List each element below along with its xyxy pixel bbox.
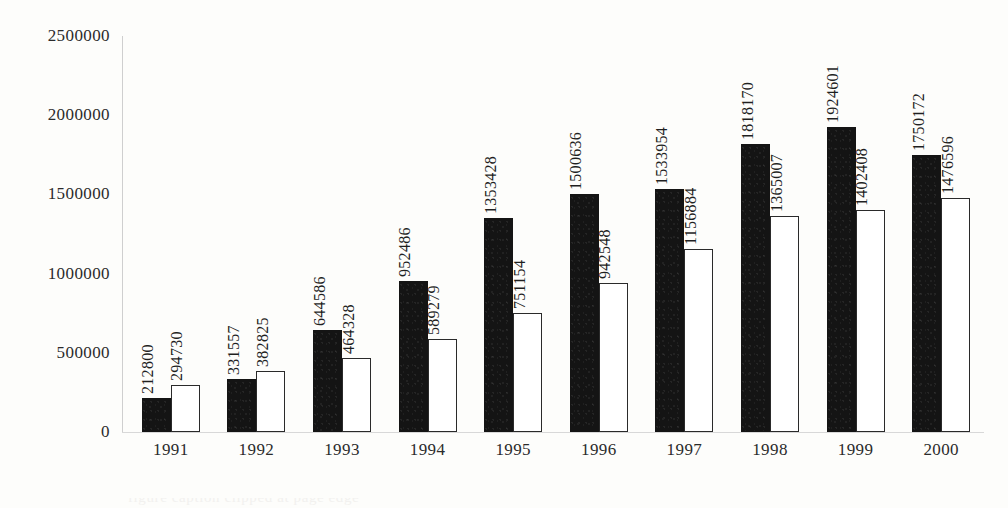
bar-value-label: 212800 [140,344,156,394]
bar-value-label: 1365007 [769,154,785,212]
bar-value-label: 589279 [426,285,442,335]
bar-group: 331557382825 [227,36,285,432]
x-tick-label: 1998 [752,440,788,460]
bar-group: 17501721476596 [912,36,970,432]
x-tick-label: 1992 [239,440,275,460]
bar-dark[interactable]: 1500636 [570,194,599,432]
x-tick-label: 1991 [153,440,189,460]
bar-value-label: 1750172 [911,93,927,151]
bar-group: 19246011402408 [827,36,885,432]
bar-group: 212800294730 [142,36,200,432]
x-tick-label: 1999 [838,440,874,460]
bar-value-label: 294730 [169,331,185,381]
bar-value-label: 751154 [512,260,528,309]
y-tick-label: 1500000 [48,184,110,204]
bar-value-label: 331557 [226,325,242,375]
bar-light[interactable]: 942548 [599,283,628,432]
bar-dark[interactable]: 1818170 [741,144,770,432]
bar-value-label: 382825 [255,317,271,367]
bar-light[interactable]: 294730 [171,385,200,432]
bar-dark[interactable]: 1533954 [655,189,684,432]
caption-text: figure caption clipped at page edge [128,498,359,506]
bar-light[interactable]: 1402408 [856,210,885,432]
bar-group: 1500636942548 [570,36,628,432]
bar-light[interactable]: 751154 [513,313,542,432]
bar-value-label: 644586 [312,276,328,326]
bar-dark[interactable]: 1750172 [912,155,941,432]
x-tick-label: 1994 [410,440,446,460]
bar-dark[interactable]: 1924601 [827,127,856,432]
bar-value-label: 1353428 [483,156,499,214]
bar-value-label: 1924601 [825,65,841,123]
bar-group: 952486589279 [399,36,457,432]
bar-light[interactable]: 589279 [428,339,457,432]
bar-value-label: 952486 [397,227,413,277]
x-tick-label: 2000 [923,440,959,460]
bar-light[interactable]: 464328 [342,358,371,432]
bar-value-label: 1818170 [740,82,756,140]
bar-light[interactable]: 1156884 [684,249,713,432]
bar-group: 18181701365007 [741,36,799,432]
bar-light[interactable]: 1365007 [770,216,799,432]
chart-page: 05000001000000150000020000002500000 2128… [0,0,1008,508]
bar-dark[interactable]: 1353428 [484,218,513,432]
bar-dark[interactable]: 212800 [142,398,171,432]
y-tick-label: 2000000 [48,105,110,125]
plot-area: 2128002947303315573828256445864643289524… [128,36,984,432]
bar-value-label: 1533954 [654,127,670,185]
x-axis: 1991199219931994199519961997199819992000 [128,440,984,470]
bar-group: 1353428751154 [484,36,542,432]
bar-group: 15339541156884 [655,36,713,432]
x-tick-label: 1995 [495,440,531,460]
x-tick-label: 1993 [324,440,360,460]
bar-group: 644586464328 [313,36,371,432]
x-tick-label: 1996 [581,440,617,460]
y-axis-line [122,36,123,433]
bar-value-label: 1476596 [940,136,956,194]
bar-value-label: 1156884 [683,187,699,245]
bar-value-label: 1402408 [854,148,870,206]
bar-light[interactable]: 1476596 [941,198,970,432]
y-tick-label: 2500000 [48,26,110,46]
bar-value-label: 942548 [597,229,613,279]
clipped-caption: figure caption clipped at page edge [0,498,1008,508]
y-tick-label: 500000 [57,343,110,363]
bar-dark[interactable]: 644586 [313,330,342,432]
bar-value-label: 1500636 [568,132,584,190]
x-tick-label: 1997 [667,440,703,460]
y-axis: 05000001000000150000020000002500000 [0,0,118,508]
y-tick-label: 0 [101,422,110,442]
y-tick-label: 1000000 [48,264,110,284]
bar-dark[interactable]: 331557 [227,379,256,432]
bar-dark[interactable]: 952486 [399,281,428,432]
x-axis-line [122,432,984,433]
bar-value-label: 464328 [341,304,357,354]
bar-light[interactable]: 382825 [256,371,285,432]
